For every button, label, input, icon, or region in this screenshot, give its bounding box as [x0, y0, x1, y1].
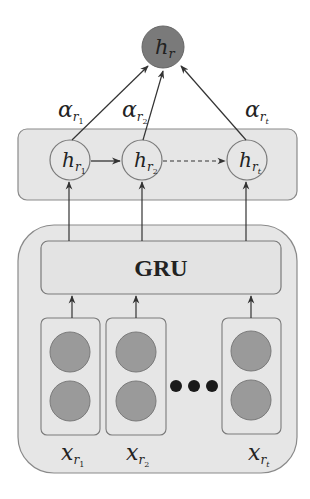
hidden-node-t: hrt — [227, 140, 267, 180]
input-block-2 — [106, 318, 166, 435]
ellipsis-dots — [170, 380, 218, 392]
attention-weight-1: αr1 — [58, 97, 84, 126]
input-unit-circle — [231, 380, 271, 420]
output-node: hr — [142, 26, 184, 68]
gru-attention-diagram: GRU hr1 hr2 hrt — [0, 0, 310, 499]
input-unit-circle — [50, 381, 90, 421]
hidden-node-2: hr2 — [122, 140, 162, 180]
input-unit-circle — [116, 332, 156, 372]
input-unit-circle — [231, 331, 271, 371]
attention-weight-2: αr2 — [122, 97, 148, 126]
input-unit-circle — [50, 332, 90, 372]
input-block-t — [222, 318, 281, 434]
hidden-node-1: hr1 — [50, 140, 90, 180]
input-unit-circle — [116, 381, 156, 421]
gru-label: GRU — [134, 255, 187, 281]
input-block-1 — [41, 318, 100, 435]
attention-weight-t: αrt — [245, 97, 270, 126]
